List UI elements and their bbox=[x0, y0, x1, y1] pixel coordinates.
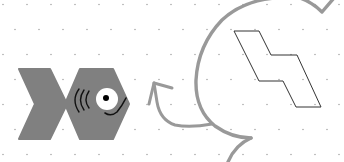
drawing-canvas bbox=[0, 0, 344, 162]
drawing-svg bbox=[0, 0, 344, 162]
fish-eye-pupil bbox=[103, 95, 109, 101]
